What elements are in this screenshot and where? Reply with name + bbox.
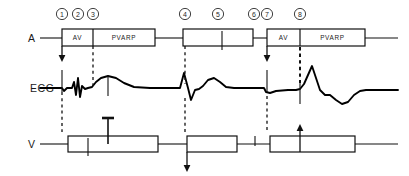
a-box-1-label-pvarp: PVARP xyxy=(112,34,137,41)
arrow-atrial-pace-1 xyxy=(59,46,66,62)
marker-label-4: 4 xyxy=(183,11,187,18)
a-box-2-rect xyxy=(183,29,253,46)
v-box-2-rect xyxy=(187,136,237,152)
marker-number-4: 4 xyxy=(179,8,190,19)
row-label-ventricular: V xyxy=(28,138,36,150)
atrial-a-box-3: AVPVARP xyxy=(267,29,365,46)
ventricular-channel xyxy=(40,136,398,156)
marker-label-7: 7 xyxy=(265,11,269,18)
diagram-canvas: 12345678 AECGV AVPVARPAVPVARP xyxy=(0,0,409,176)
marker-label-5: 5 xyxy=(216,11,220,18)
marker-number-2: 2 xyxy=(72,8,83,19)
a-box-1-label-av: AV xyxy=(73,34,82,41)
atrial-a-box-2 xyxy=(183,29,253,50)
marker-number-5: 5 xyxy=(212,8,223,19)
ventricular-v-box-3 xyxy=(270,136,355,152)
ecg-waveform-trace xyxy=(40,66,398,104)
marker-number-3: 3 xyxy=(87,8,98,19)
marker-label-3: 3 xyxy=(91,11,95,18)
a-box-3-label-pvarp: PVARP xyxy=(320,34,345,41)
marker-number-6: 6 xyxy=(248,8,259,19)
atrial-a-box-1: AVPVARP xyxy=(62,29,155,46)
arrow-v-sense-down-head-icon xyxy=(184,165,191,172)
v-box-1-rect xyxy=(68,136,158,152)
marker-number-7: 7 xyxy=(261,8,272,19)
arrow-atrial-pace-7 xyxy=(264,46,271,62)
marker-label-8: 8 xyxy=(298,11,302,18)
arrow-v-pace-up-head-icon xyxy=(297,124,304,131)
arrow-atrial-pace-1-head-icon xyxy=(59,55,66,62)
marker-label-1: 1 xyxy=(60,11,64,18)
marker-number-8: 8 xyxy=(294,8,305,19)
arrow-v-sense-down xyxy=(184,152,191,172)
ventricular-v-box-1 xyxy=(68,136,158,156)
marker-number-1: 1 xyxy=(56,8,67,19)
a-box-3-label-av: AV xyxy=(279,34,288,41)
event-annotation-layer xyxy=(59,46,304,172)
row-label-atrial: A xyxy=(28,32,36,44)
pacemaker-timing-diagram: 12345678 AECGV AVPVARPAVPVARP xyxy=(0,0,409,176)
ventricular-v-box-2 xyxy=(187,136,237,152)
marker-label-2: 2 xyxy=(76,11,80,18)
marker-label-6: 6 xyxy=(252,11,256,18)
v-box-3-rect xyxy=(270,136,355,152)
channel-labels: AECGV xyxy=(28,32,55,150)
arrow-atrial-pace-7-head-icon xyxy=(264,55,271,62)
atrial-channel: AVPVARPAVPVARP xyxy=(40,29,398,50)
ecg-channel xyxy=(40,66,398,104)
marker-number-row: 12345678 xyxy=(56,8,305,19)
